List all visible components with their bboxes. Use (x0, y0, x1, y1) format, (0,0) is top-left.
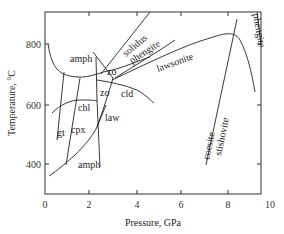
label-amph-top: amph (70, 53, 92, 64)
label-amph-bottom: amph (78, 159, 100, 170)
y-tick-label: 800 (26, 39, 41, 50)
phase-diagram: 0 2 4 6 8 10 800 600 400 Pressure, GPa T… (0, 0, 284, 234)
label-chl: chl (78, 102, 90, 113)
x-tick-label: 8 (226, 199, 231, 210)
x-tick-label: 4 (135, 199, 140, 210)
x-axis-label: Pressure, GPa (125, 217, 182, 228)
y-tick-label: 600 (26, 100, 41, 111)
label-phengite-right: phengite (251, 12, 268, 48)
y-axis-label: Temperature, °C (6, 70, 17, 136)
x-tick-label: 6 (179, 199, 184, 210)
label-cpx: cpx (71, 124, 85, 135)
label-zo-mid: zo (100, 87, 109, 98)
phase-boundaries (48, 12, 261, 176)
x-tick-label: 2 (87, 199, 92, 210)
label-law: law (105, 112, 120, 123)
label-lawsonite: lawsonite (155, 50, 195, 74)
label-zo-top: zo (107, 66, 116, 77)
label-cld: cld (121, 88, 133, 99)
y-tick-label: 400 (26, 159, 41, 170)
x-tick-label: 0 (43, 199, 48, 210)
x-tick-label: 10 (265, 199, 275, 210)
x-ticks (89, 12, 228, 194)
label-gt: gt (57, 127, 65, 138)
